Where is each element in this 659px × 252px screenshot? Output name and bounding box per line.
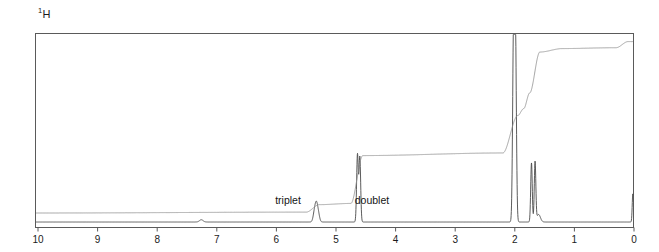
x-axis-tick-label: 2 [512, 234, 518, 245]
integral-curve-group [36, 42, 633, 213]
peak-annotation-doublet: doublet [355, 194, 390, 206]
plot-frame-rect [36, 34, 634, 228]
x-axis-tick-label: 9 [95, 234, 101, 245]
x-axis-tick-label: 5 [333, 234, 339, 245]
x-axis-group: 109876543210 [32, 228, 637, 245]
plot-frame [36, 34, 634, 228]
peak-annotation-triplet: triplet [275, 194, 301, 206]
integral-curve [36, 42, 633, 213]
x-axis-tick-label: 3 [452, 234, 458, 245]
x-axis-tick-label: 8 [154, 234, 160, 245]
x-axis-tick-label: 7 [214, 234, 220, 245]
x-axis-tick-label: 10 [32, 234, 44, 245]
spectrum-trace-group [36, 35, 633, 223]
spectrum-trace [36, 35, 633, 223]
x-axis-tick-label: 0 [631, 234, 637, 245]
x-axis-tick-label: 1 [572, 234, 578, 245]
spectrum-plot: 109876543210 tripletdoublet [0, 0, 659, 252]
x-axis-tick-label: 4 [393, 234, 399, 245]
nmr-spectrum-figure: 1H 109876543210 tripletdoublet [0, 0, 659, 252]
x-axis-tick-label: 6 [274, 234, 280, 245]
